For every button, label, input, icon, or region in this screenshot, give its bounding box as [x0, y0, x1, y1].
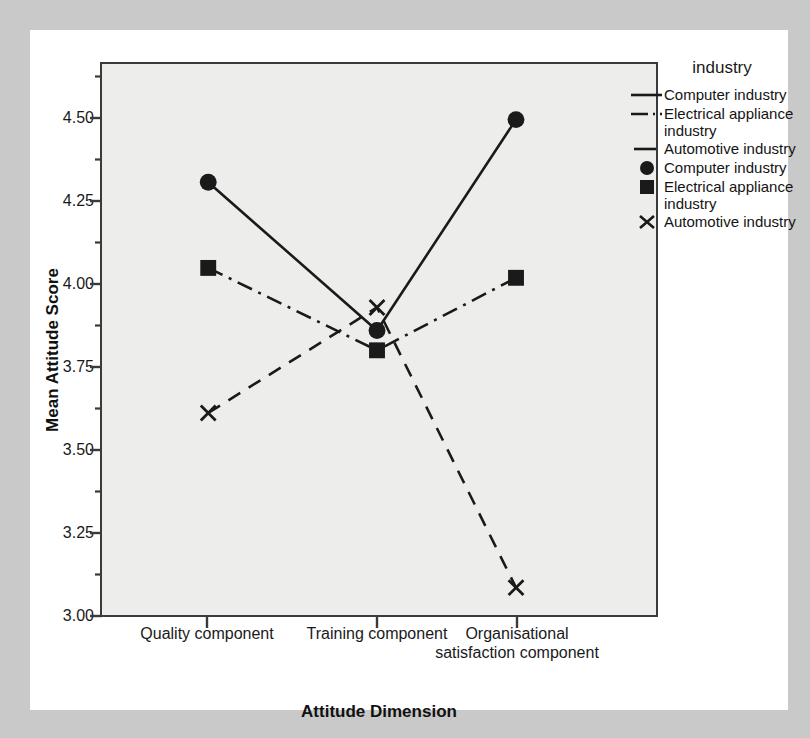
- legend-entry-label: Electrical appliance industry: [664, 105, 800, 139]
- legend-entry-label: Automotive industry: [664, 140, 796, 157]
- x-tick-label: Organisational satisfaction component: [432, 624, 602, 662]
- legend-entry-label: Automotive industry: [664, 213, 796, 230]
- x-tick-label: Quality component: [122, 624, 292, 643]
- legend-entry[interactable]: Electrical appliance industry: [630, 105, 800, 139]
- data-point-marker: [370, 300, 385, 315]
- data-point-marker: [200, 260, 216, 276]
- series-line-x: [208, 307, 516, 587]
- marker-x-icon: [630, 213, 664, 231]
- legend-entry[interactable]: Electrical appliance industry: [630, 178, 800, 212]
- line-solid-icon: [630, 86, 664, 104]
- x-axis-title: Attitude Dimension: [100, 702, 658, 722]
- series-line-circle: [208, 120, 516, 331]
- line-chart: Mean Attitude Score 4.504.254.003.753.50…: [30, 30, 788, 710]
- legend-entry[interactable]: Computer industry: [630, 159, 800, 177]
- chart-legend: industry Computer industryElectrical app…: [630, 58, 800, 232]
- data-point-marker: [201, 406, 216, 421]
- data-point-marker: [369, 342, 385, 358]
- data-point-marker: [508, 111, 525, 128]
- series-line-square: [208, 268, 516, 350]
- marker-square-icon: [630, 178, 664, 196]
- legend-entry-label: Computer industry: [664, 86, 787, 103]
- data-point-marker: [509, 580, 524, 595]
- y-axis-tick-marks: [82, 62, 102, 617]
- plot-series-svg: [102, 64, 656, 615]
- figure-card: Mean Attitude Score 4.504.254.003.753.50…: [30, 30, 788, 710]
- line-dashdot-icon: [630, 105, 664, 123]
- legend-entries: Computer industryElectrical appliance in…: [630, 86, 800, 231]
- marker-circle-icon: [630, 159, 664, 177]
- plot-area: [100, 62, 658, 617]
- legend-entry[interactable]: Computer industry: [630, 86, 800, 104]
- x-axis-tick-labels: Quality componentTraining componentOrgan…: [100, 624, 658, 704]
- data-point-marker: [508, 270, 524, 286]
- legend-entry[interactable]: Automotive industry: [630, 140, 800, 158]
- data-point-marker: [369, 322, 386, 339]
- legend-entry[interactable]: Automotive industry: [630, 213, 800, 231]
- data-point-marker: [200, 174, 217, 191]
- legend-entry-label: Electrical appliance industry: [664, 178, 800, 212]
- screenshot-root: Mean Attitude Score 4.504.254.003.753.50…: [0, 0, 810, 738]
- legend-entry-label: Computer industry: [664, 159, 787, 176]
- line-dashed-icon: [630, 140, 664, 158]
- legend-title: industry: [662, 58, 782, 78]
